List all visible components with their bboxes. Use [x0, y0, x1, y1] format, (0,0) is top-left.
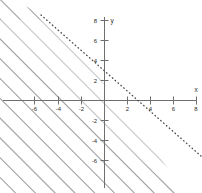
x-tick-label-2: 2 [126, 106, 130, 112]
x-tick-label-6: 6 [172, 106, 176, 112]
linear-inequality-graph: -6 -4 -2 2 4 6 8 8 6 4 2 -2 -4 -6 y x [0, 0, 202, 193]
y-axis-label: y [110, 17, 114, 25]
y-tick-label--6: -6 [92, 158, 98, 164]
hatched-half-plane-main [0, 0, 202, 193]
y-tick-label--4: -4 [92, 138, 98, 144]
plot-canvas: -6 -4 -2 2 4 6 8 8 6 4 2 -2 -4 -6 y x [0, 0, 202, 193]
x-tick-label-4: 4 [149, 106, 153, 112]
x-tick-label--2: -2 [79, 106, 85, 112]
shaded-region [0, 0, 202, 193]
x-tick-label--6: -6 [32, 106, 38, 112]
x-axis-label: x [194, 86, 198, 93]
x-tick-label--4: -4 [56, 106, 62, 112]
y-tick-label--2: -2 [92, 118, 98, 124]
y-tick-label-6: 6 [94, 38, 98, 44]
y-tick-label-8: 8 [94, 18, 98, 24]
y-tick-label-4: 4 [94, 58, 98, 64]
x-tick-label-8: 8 [194, 106, 198, 112]
